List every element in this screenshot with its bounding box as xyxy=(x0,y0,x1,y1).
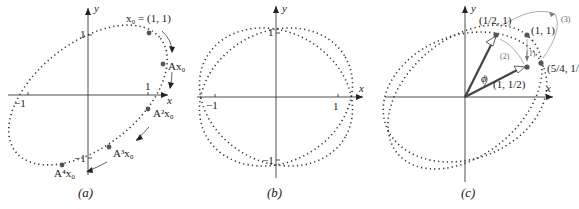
caption-a: (a) xyxy=(78,185,93,201)
x-axis-label: x xyxy=(166,94,172,106)
step-1-label: (1) xyxy=(526,49,536,58)
tick-y-neg: −1 xyxy=(262,154,274,166)
panel-b-plot: y x 1 −1 1 −1 xyxy=(193,0,383,209)
tick-x-neg: −1 xyxy=(206,99,218,111)
label-Ax0: Ax₀ xyxy=(168,60,185,72)
panel-c-plot: y x (1/2, 1) (1, 1) (1, 1/2) (5/4, 1/2) … xyxy=(383,0,579,209)
step-3-label: (3) xyxy=(561,15,571,24)
y-axis-label: y xyxy=(93,2,99,14)
panel-a: y x 1 −1 1 −1 x₀ = (1, 1) Ax₀ A²x₀ A³x₀ … xyxy=(0,0,193,209)
tick-x-pos: 1 xyxy=(145,80,151,92)
tick-y-pos: 1 xyxy=(80,28,86,40)
tick-x-pos: 1 xyxy=(333,100,339,112)
panel-b: y x 1 −1 1 −1 (b) xyxy=(193,0,383,209)
y-axis-label: y xyxy=(281,2,287,14)
label-x0: x₀ = (1, 1) xyxy=(126,12,171,25)
label-A4x0: A⁴x₀ xyxy=(54,167,75,179)
angle-phi-label: ϕ xyxy=(481,72,487,84)
tick-y-pos: 1 xyxy=(268,26,274,38)
panel-c: y x (1/2, 1) (1, 1) (1, 1/2) (5/4, 1/2) … xyxy=(383,0,579,209)
y-axis-label: y xyxy=(470,2,476,14)
x-axis-label: x xyxy=(358,82,364,94)
label-A2x0: A²x₀ xyxy=(153,107,174,119)
step-2-label: (2) xyxy=(500,52,510,61)
tick-x-neg: −1 xyxy=(14,97,26,109)
panel-a-plot: y x 1 −1 1 −1 x₀ = (1, 1) Ax₀ A²x₀ A³x₀ … xyxy=(0,0,193,209)
label-half-one: (1/2, 1) xyxy=(479,14,512,27)
label-one-one: (1, 1) xyxy=(531,24,555,37)
x-axis-label: x xyxy=(545,82,551,94)
label-five-quarters-half: (5/4, 1/2) xyxy=(547,62,579,75)
caption-c: (c) xyxy=(461,185,475,201)
tick-y-neg: −1 xyxy=(74,152,86,164)
caption-b: (b) xyxy=(267,185,282,201)
label-one-half: (1, 1/2) xyxy=(493,78,526,91)
label-A3x0: A³x₀ xyxy=(113,147,134,159)
